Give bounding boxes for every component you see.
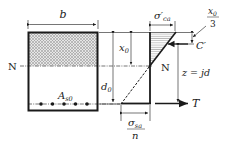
compression-depth-label: x0: [119, 42, 129, 55]
rebar: [51, 102, 55, 106]
resultant-offset-denominator: 3: [210, 19, 216, 29]
rebar: [74, 102, 78, 106]
steel-area-label: As0: [57, 90, 73, 103]
beam-stress-diagram: b N As0 d0 x0: [0, 0, 229, 142]
rebar: [85, 102, 89, 106]
effective-depth-label: d0: [101, 81, 112, 94]
stress-diagram: N σ′ca σsa n: [108, 10, 176, 141]
steel-stress-numerator: σsa: [128, 117, 142, 130]
rebar: [39, 102, 43, 106]
neutral-axis-label-left: N: [8, 61, 17, 72]
tensile-stress-dashed-line: [121, 67, 149, 104]
steel-stress-denominator: n: [132, 130, 138, 141]
depth-dimensions: d0 x0: [99, 33, 131, 105]
neutral-axis-label-right: N: [161, 62, 170, 73]
width-dimension: b: [28, 8, 98, 29]
compression-zone-hatch: [29, 33, 98, 66]
tension-force-label: T: [192, 97, 201, 110]
resultant-offset-leader: [193, 26, 206, 37]
compression-force-label: C′: [196, 40, 207, 51]
resultant-offset-numerator: x0: [208, 6, 217, 17]
cross-section: b N As0: [8, 8, 152, 111]
concrete-stress-label: σ′ca: [154, 10, 171, 23]
width-label: b: [59, 8, 66, 21]
lever-arm-label: z = jd: [181, 67, 210, 78]
